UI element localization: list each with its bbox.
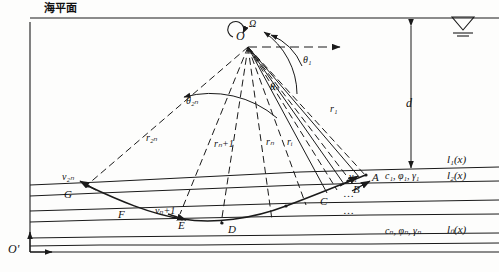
radius-label-ri: rᵢ <box>287 137 292 147</box>
frame-box <box>30 22 499 252</box>
layer-label-l2: l₂(x) <box>447 170 466 181</box>
angle-arc-theta1 <box>271 35 302 66</box>
point-label-C: C <box>320 196 327 207</box>
ellipsis-lower: … <box>343 205 355 216</box>
diagram-vector-layer <box>0 0 499 272</box>
point-label-Oprime: O' <box>8 243 19 255</box>
point-label-F: F <box>118 209 125 220</box>
layern-parameters: cₙ, φₙ, γₙ <box>385 226 421 236</box>
layer1-parameters: c₁, φ₁, γ₁ <box>385 171 419 181</box>
ellipsis-upper: … <box>343 188 355 199</box>
radius-label-r1: r₁ <box>330 104 337 114</box>
point-label-omega: Ω <box>249 19 256 29</box>
sea-level-label: 海平面 <box>44 3 77 14</box>
point-label-O: O <box>236 30 245 42</box>
radius-label-r2n: r₂ₙ <box>146 133 157 143</box>
depth-label-d: d <box>406 97 412 109</box>
origin-axes-Oprime <box>30 232 52 252</box>
angle-label-thetan: θₙ <box>270 82 279 92</box>
point-label-A: A <box>372 172 379 183</box>
layer-label-l1: l₁(x) <box>447 154 466 165</box>
water-surface-symbol <box>452 17 474 36</box>
layer-label-ln: lₙ(x) <box>447 224 466 235</box>
point-label-E: E <box>178 220 185 231</box>
radius-label-rn-plus-1: rₙ+1 <box>214 139 234 149</box>
angle-label-theta2n: θ₂ₙ <box>186 96 198 106</box>
point-label-D: D <box>228 224 236 235</box>
velocity-label-v2n: v₂ₙ <box>62 172 74 182</box>
radius-label-rn: rₙ <box>266 137 274 147</box>
strata-boundaries <box>30 167 499 246</box>
angle-label-theta1: θ₁ <box>303 55 311 65</box>
velocity-label-vn-plus-1: vₙ+1 <box>155 206 175 216</box>
velocity-label-v1: v₁ <box>349 172 357 182</box>
figure-canvas: 海平面 O Ω O' d θ₁ θₙ θ₂ₙ r₁ rᵢ rₙ rₙ+1 r₂ₙ… <box>0 0 499 272</box>
point-label-G: G <box>64 189 72 200</box>
